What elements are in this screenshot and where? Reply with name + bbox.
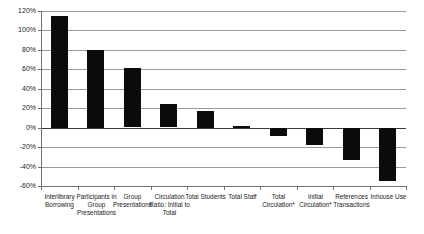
x-tick-mark (114, 186, 115, 190)
x-category-label: References Transactions (331, 193, 372, 209)
y-tick-mark (38, 69, 42, 70)
y-tick-label: -60% (2, 182, 36, 189)
bar (160, 104, 177, 127)
bar (124, 68, 141, 127)
x-tick-mark (333, 186, 334, 190)
y-tick-mark (38, 30, 42, 31)
y-tick-label: 40% (2, 85, 36, 92)
gridline (41, 11, 406, 12)
gridline (41, 30, 406, 31)
bar (270, 128, 287, 136)
y-axis-line (41, 11, 42, 187)
bar (379, 128, 396, 181)
x-tick-mark (78, 186, 79, 190)
gridline (41, 167, 406, 168)
x-tick-mark (260, 186, 261, 190)
x-category-label: Inhouse Use (368, 193, 409, 201)
x-category-label: Interlibrary Borrowing (39, 193, 80, 209)
y-tick-label: 100% (2, 26, 36, 33)
y-tick-mark (38, 89, 42, 90)
y-tick-mark (38, 128, 42, 129)
y-tick-label: 0% (2, 124, 36, 131)
x-tick-mark (297, 186, 298, 190)
bar (197, 111, 214, 128)
x-tick-mark (224, 186, 225, 190)
y-tick-label: 120% (2, 7, 36, 14)
x-tick-mark (151, 186, 152, 190)
bar (51, 16, 68, 128)
x-category-label: Participants in Group Presentations (76, 193, 117, 217)
x-category-label: Total Students (185, 193, 226, 201)
bar (343, 128, 360, 160)
x-tick-mark (41, 186, 42, 190)
y-tick-mark (38, 11, 42, 12)
x-tick-mark (370, 186, 371, 190)
x-tick-mark (406, 186, 407, 190)
bar (233, 126, 250, 128)
bar (306, 128, 323, 145)
y-tick-mark (38, 147, 42, 148)
y-tick-label: 60% (2, 65, 36, 72)
x-category-label: Initial Circulation* (295, 193, 336, 209)
y-tick-mark (38, 108, 42, 109)
y-tick-mark (38, 50, 42, 51)
y-tick-mark (38, 167, 42, 168)
x-category-label: Circulation Ratio: Initial to Total (149, 193, 190, 217)
y-tick-label: -20% (2, 143, 36, 150)
y-tick-label: 20% (2, 104, 36, 111)
bar (87, 50, 104, 128)
x-category-label: Total Staff (222, 193, 263, 201)
y-tick-label: 80% (2, 46, 36, 53)
x-category-label: Group Presentations (112, 193, 153, 209)
x-category-label: Total Circulation* (258, 193, 299, 209)
y-tick-label: -40% (2, 163, 36, 170)
x-tick-mark (187, 186, 188, 190)
bar-chart: 120%100%80%60%40%20%0%-20%-40%-60% Inter… (0, 0, 424, 234)
